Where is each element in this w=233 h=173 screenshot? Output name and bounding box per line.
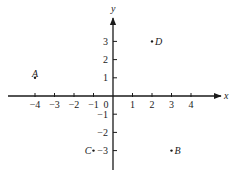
y-tick-label: 3 bbox=[103, 36, 108, 47]
y-tick-label: −1 bbox=[97, 109, 108, 120]
point-dot bbox=[170, 149, 172, 151]
point-label: C bbox=[85, 145, 92, 156]
point-b: B bbox=[170, 145, 180, 156]
y-axis-label: y bbox=[110, 3, 116, 14]
point-label: D bbox=[154, 36, 163, 47]
point-c: C bbox=[85, 145, 95, 156]
point-dot bbox=[92, 149, 94, 151]
x-tick-label: 1 bbox=[130, 99, 135, 110]
coordinate-plane: −4−3−2−101234321−1−2−3 ABCD x y bbox=[0, 0, 233, 173]
x-axis-label: x bbox=[223, 90, 229, 101]
point-a: A bbox=[31, 68, 39, 79]
point-dot bbox=[151, 40, 153, 42]
axes bbox=[8, 18, 221, 170]
y-tick-label: −3 bbox=[97, 145, 108, 156]
x-tick-label: 4 bbox=[189, 99, 194, 110]
point-d: D bbox=[151, 36, 163, 47]
x-tick-label: −3 bbox=[49, 99, 60, 110]
point-label: B bbox=[175, 145, 181, 156]
y-tick-label: 1 bbox=[103, 72, 108, 83]
x-tick-label: 2 bbox=[150, 99, 155, 110]
y-tick-label: −2 bbox=[97, 127, 108, 138]
x-tick-label: 3 bbox=[169, 99, 174, 110]
y-tick-label: 2 bbox=[103, 54, 108, 65]
x-tick-label: −4 bbox=[30, 99, 41, 110]
x-tick-label: −2 bbox=[69, 99, 80, 110]
point-label: A bbox=[31, 68, 39, 79]
